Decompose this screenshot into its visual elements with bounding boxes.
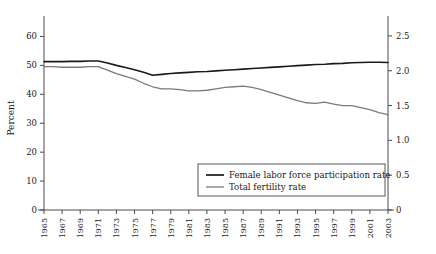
right-axis-tick-label: 0 — [396, 205, 401, 215]
dual-axis-line-chart: 0102030405060 00.51.01.52.02.5 196519671… — [0, 0, 436, 254]
x-axis-tick-label: 1969 — [76, 218, 85, 238]
left-axis-tick-label: 30 — [26, 118, 37, 128]
right-axis: 00.51.01.52.02.5 — [388, 16, 410, 215]
right-axis-tick-label: 1.0 — [396, 135, 410, 145]
legend-label: Female labor force participation rate — [229, 170, 390, 180]
left-axis-tick-label: 20 — [26, 147, 37, 157]
x-axis-tick-label: 1983 — [203, 218, 212, 238]
x-axis-tick-label: 1981 — [185, 218, 194, 238]
x-axis-tick-label: 1995 — [312, 218, 321, 238]
x-axis-tick-label: 1979 — [167, 218, 176, 238]
right-axis-tick-label: 1.5 — [396, 101, 410, 111]
left-axis: 0102030405060 — [26, 16, 44, 215]
x-axis-tick-label: 1991 — [275, 218, 284, 238]
left-axis-tick-label: 60 — [26, 31, 37, 41]
right-axis-tick-label: 2.0 — [396, 66, 410, 76]
left-axis-tick-label: 10 — [26, 176, 37, 186]
series-lines — [44, 61, 388, 115]
x-axis-tick-label: 1999 — [348, 218, 357, 238]
x-axis-tick-label: 1977 — [149, 218, 158, 238]
x-axis: 1965196719691971197319751977197919811983… — [38, 210, 394, 238]
chart-legend: Female labor force participation rateTot… — [198, 164, 390, 196]
x-axis-tick-label: 1973 — [112, 218, 121, 238]
series-line-total-fertility-rate — [44, 67, 388, 115]
x-axis-tick-label: 1987 — [239, 218, 248, 238]
y-axis-title: Percent — [6, 100, 16, 135]
x-axis-tick-label: 1967 — [58, 218, 67, 238]
series-line-female-labor-force-participation-rate — [44, 61, 388, 75]
left-axis-tick-label: 50 — [26, 60, 37, 70]
x-axis-tick-label: 1985 — [221, 218, 230, 238]
right-axis-tick-label: 2.5 — [396, 31, 410, 41]
x-axis-tick-label: 1971 — [94, 218, 103, 238]
x-axis-tick-label: 1989 — [257, 218, 266, 238]
x-axis-tick-label: 1993 — [293, 218, 302, 238]
x-axis-tick-label: 2003 — [384, 218, 393, 238]
x-axis-tick-label: 1997 — [330, 218, 339, 238]
legend-label: Total fertility rate — [229, 182, 306, 192]
left-axis-tick-label: 0 — [32, 205, 37, 215]
x-axis-tick-label: 1975 — [131, 218, 140, 238]
x-axis-tick-label: 2001 — [366, 218, 375, 238]
chart-container: 0102030405060 00.51.01.52.02.5 196519671… — [0, 0, 436, 254]
right-axis-tick-label: 0.5 — [396, 170, 410, 180]
x-axis-tick-label: 1965 — [40, 218, 49, 238]
left-axis-tick-label: 40 — [26, 89, 37, 99]
